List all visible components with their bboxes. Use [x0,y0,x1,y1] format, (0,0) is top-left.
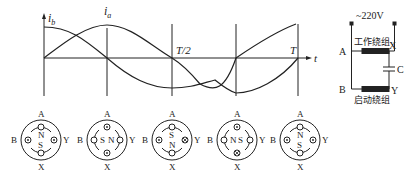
slot-y-icon [117,137,123,143]
slot-x-icon [297,150,303,156]
terminal-x-label: X [389,40,397,51]
circuit-diagram [350,22,396,92]
t-axis-label: t [314,52,318,64]
rotor-pole-left: N [230,135,237,145]
ib-label: ib [48,11,55,27]
rotor-pole-bottom: S [297,140,302,150]
rotor-pole-right: S [238,135,243,145]
rotor-pole-left: S [100,135,105,145]
supply-label: ~220V [356,10,384,21]
rotor-pole-bottom: S [38,140,43,150]
label-a: A [234,109,241,119]
label-a: A [169,109,176,119]
slot-y-cross-icon [182,137,188,143]
work-winding-label: 工作绕组 [354,36,390,47]
capacitor-label: C [397,64,404,75]
label-a: A [297,109,304,119]
work-winding-icon [362,49,389,54]
curve-ia [44,24,296,88]
label-x: X [234,162,241,172]
label-x: X [297,162,304,172]
label-y: Y [129,135,136,145]
label-b: B [77,135,83,145]
slot-x-icon [38,150,44,156]
label-x: X [104,162,111,172]
slot-a-dot-icon [104,124,110,130]
y-axis-arrow-icon [42,13,46,19]
ia-label: ia [104,4,111,20]
terminal-y-label: Y [391,85,398,96]
rotor-pole-top: S [169,130,174,140]
slot-a-dot-icon [234,124,240,130]
label-b: B [11,135,17,145]
slot-b-icon [221,137,227,143]
period-label: T [290,44,297,56]
curve-ib [44,27,298,93]
slot-b-dot-icon [25,137,31,143]
slot-b-icon [91,137,97,143]
rotor-arc-icon [224,130,249,150]
slot-y-icon [247,137,253,143]
slot-y-dot-icon [310,137,316,143]
slot-b-dot-icon [156,137,162,143]
motor-state-3: S N A X B Y [142,109,201,172]
label-x: X [38,162,45,172]
slot-y-dot-icon [51,137,57,143]
label-a: A [104,109,111,119]
label-y: Y [194,135,201,145]
motor-state-4: N S A X B Y [207,109,266,172]
rotor-pole-top: N [297,130,304,140]
motor-state-2: S N A X B Y [77,109,136,172]
rotor-pole-top: N [38,130,45,140]
slot-x-cross-icon [234,150,240,156]
diagram-canvas: ib ia T/2 T t ~220V 工作绕组 启动绕组 A B X Y C [0,0,415,178]
motor-state-1: N S A X B Y [11,109,70,172]
motor-state-5: N S A X B Y [270,109,329,172]
label-y: Y [63,135,70,145]
terminal-b-label: B [339,84,346,95]
supply-terminal-left-icon [350,22,353,25]
label-y: Y [259,135,266,145]
label-b: B [270,135,276,145]
rotor-pole-bottom: N [169,140,176,150]
label-x: X [169,162,176,172]
slot-x-dot-icon [104,150,110,156]
start-winding-icon [362,87,389,92]
slot-b-dot-icon [284,137,290,143]
rotor-arc-icon [94,130,119,150]
slot-x-icon [169,150,175,156]
label-a: A [38,109,45,119]
start-winding-label: 启动绕组 [354,94,390,105]
terminal-a-label: A [339,46,347,57]
supply-terminal-right-icon [393,22,396,25]
rotor-pole-right: N [108,135,115,145]
t-axis-arrow-icon [306,56,312,60]
half-period-label: T/2 [176,44,191,56]
label-b: B [142,135,148,145]
label-b: B [207,135,213,145]
label-y: Y [322,135,329,145]
